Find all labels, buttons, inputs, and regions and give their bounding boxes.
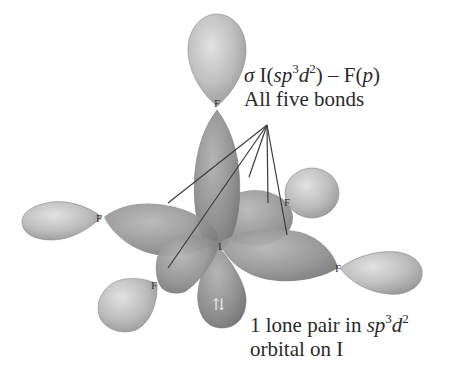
f-orbital-right (340, 252, 422, 295)
lone-pair-label-line2: orbital on I (250, 337, 409, 361)
f-orbital-top (188, 14, 246, 106)
bond-description-label: σ I(sp3d2) – F(p) All five bonds (244, 63, 380, 111)
lone-pair-label-line1: 1 lone pair in sp3d2 (250, 313, 409, 337)
f-orbital-front-left (98, 278, 157, 332)
atom-f-front-left: F (151, 279, 157, 291)
f-orbital-back-right (285, 168, 339, 218)
lone-pair-description-label: 1 lone pair in sp3d2 orbital on I (250, 313, 409, 361)
bond-label-line2: All five bonds (244, 87, 380, 111)
atom-f-right: F (335, 262, 341, 274)
atom-i-central: I (218, 240, 222, 252)
bond-label-line1: σ I(sp3d2) – F(p) (244, 63, 380, 87)
atom-f-left: F (96, 212, 102, 224)
atom-f-top: F (214, 97, 220, 109)
f-orbital-left (22, 202, 102, 240)
lone-pair-electrons-icon: ⇅ (212, 296, 225, 313)
atom-f-back-right: F (284, 196, 290, 208)
